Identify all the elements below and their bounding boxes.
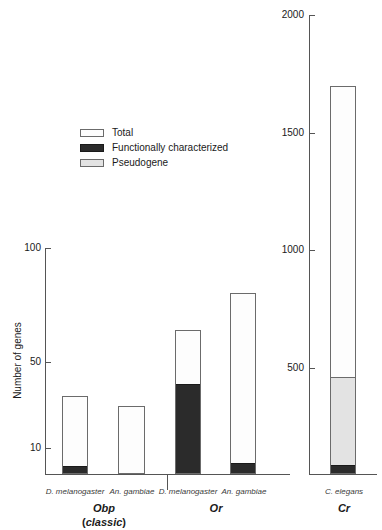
left-axis-label-10: 10 <box>5 443 41 453</box>
left-axis-label-50: 50 <box>5 357 41 367</box>
bar-obp-d-melanogaster <box>62 396 88 474</box>
legend-label-functionally-characterized: Functionally characterized <box>112 142 228 153</box>
legend-item-functionally-characterized: Functionally characterized <box>80 140 228 155</box>
group-label-cr: Cr <box>302 502 382 514</box>
bar-segment-functionally-characterized <box>231 463 255 473</box>
right-axis-tick-1500 <box>309 133 315 134</box>
group-sublabel-obp-italic: classic <box>86 516 123 528</box>
group-label-or: Or <box>174 502 258 514</box>
legend-swatch-functionally-characterized-icon <box>80 144 104 152</box>
left-axis-tick-10 <box>45 448 51 449</box>
right-axis-label-1500: 1500 <box>266 128 304 138</box>
group-label-obp: Obp <box>62 502 146 514</box>
legend-swatch-pseudogene-icon <box>80 159 104 167</box>
bar-segment-functionally-characterized <box>63 466 87 473</box>
group-sublabel-obp-close: ) <box>122 516 126 528</box>
bar-segment-functionally-characterized <box>331 465 355 473</box>
left-axis-label-100: 100 <box>5 243 41 253</box>
right-axis-label-1000: 1000 <box>266 245 304 255</box>
bar-or-an-gambiae <box>230 293 256 474</box>
bar-segment-pseudogene <box>331 377 355 473</box>
left-axis-tick-50 <box>45 362 51 363</box>
x-axis-species-label-3: An. gambiae <box>205 487 283 496</box>
legend-swatch-total-icon <box>80 129 104 137</box>
right-baseline <box>309 474 377 475</box>
right-axis-label-2000: 2000 <box>266 10 304 20</box>
bar-or-d-melanogaster <box>175 330 201 474</box>
legend-label-total: Total <box>112 127 133 138</box>
right-axis-tick-2000 <box>309 15 315 16</box>
bar-cr-c-elegans <box>330 86 356 474</box>
y-axis-title: Number of genes <box>12 316 23 406</box>
left-axis-tick-100 <box>45 248 51 249</box>
legend-item-pseudogene: Pseudogene <box>80 155 228 170</box>
right-axis-tick-1000 <box>309 250 315 251</box>
legend: Total Functionally characterized Pseudog… <box>80 125 228 170</box>
group-sublabel-obp: (classic) <box>62 516 146 528</box>
legend-item-total: Total <box>80 125 228 140</box>
left-y-axis-line <box>45 248 46 474</box>
right-axis-label-500: 500 <box>266 363 304 373</box>
right-axis-tick-500 <box>309 368 315 369</box>
legend-label-pseudogene: Pseudogene <box>112 157 168 168</box>
bar-segment-functionally-characterized <box>176 384 200 473</box>
right-y-axis-line <box>309 15 310 474</box>
x-axis-species-label-4: C. elegans <box>305 487 382 496</box>
bar-obp-an-gambiae <box>118 406 145 474</box>
gene-family-bar-chart: 100 50 10 Number of genes 2000 1500 1000… <box>0 0 382 530</box>
